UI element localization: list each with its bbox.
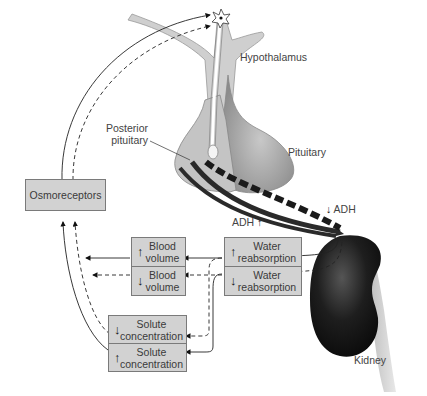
arrow-down-icon: ↓ [137, 275, 144, 287]
arc-solid-solute-to-osmo [63, 222, 108, 350]
box-osmoreceptors: Osmoreceptors [25, 179, 106, 211]
label-posterior-pituitary: Posterior pituitary [106, 122, 148, 146]
arrow-water-up-to-solute-down [186, 258, 222, 336]
hypothalamus-shape [128, 14, 264, 130]
box-solute-concentration-up: ↑ Soluteconcentration [108, 343, 187, 372]
box-line2: reabsorption [238, 252, 296, 264]
box-solute-concentration-down: ↓ Soluteconcentration [108, 315, 187, 344]
label-adh-decrease: ↓ ADH [326, 203, 356, 215]
box-water-reabsorption-up: ↑ Waterreabsorption [224, 237, 302, 267]
arrow-up-icon: ↑ [257, 216, 262, 228]
box-blood-volume-down: ↓ Bloodvolume [131, 266, 186, 296]
box-line2: volume [146, 281, 180, 293]
arrow-up-icon: ↑ [230, 246, 237, 258]
box-line2: reabsorption [238, 281, 296, 293]
box-line1: Blood [149, 240, 176, 252]
kidney-shape [310, 235, 396, 392]
box-line1: Blood [149, 269, 176, 281]
label-hypothalamus: Hypothalamus [240, 51, 307, 63]
label-pituitary: Pituitary [288, 146, 326, 158]
box-line2: concentration [120, 330, 183, 342]
box-line1: Water [253, 269, 281, 281]
adh-label-text: ADH [232, 216, 254, 228]
box-line1: Water [253, 240, 281, 252]
adh-label-text: ADH [334, 203, 356, 215]
box-osmoreceptors-label: Osmoreceptors [30, 189, 102, 201]
box-blood-volume-up: ↑ Bloodvolume [131, 237, 186, 267]
box-line2: volume [146, 252, 180, 264]
arrow-down-icon: ↓ [326, 203, 331, 215]
label-posterior-line2: pituitary [106, 134, 148, 146]
box-line2: concentration [120, 358, 183, 370]
label-adh-increase: ADH ↑ [232, 216, 262, 228]
arrow-water-down-to-solute-up [186, 274, 222, 352]
box-line1: Solute [137, 346, 167, 358]
arrow-down-icon: ↓ [114, 324, 121, 336]
arrow-down-icon: ↓ [230, 275, 237, 287]
box-line1: Solute [137, 318, 167, 330]
label-kidney: Kidney [354, 354, 386, 366]
arrow-up-icon: ↑ [114, 352, 121, 364]
arc-dashed-solute-to-osmo [75, 222, 110, 334]
label-posterior-line1: Posterior [106, 122, 148, 134]
arrow-up-icon: ↑ [137, 246, 144, 258]
box-water-reabsorption-down: ↓ Waterreabsorption [224, 266, 302, 296]
